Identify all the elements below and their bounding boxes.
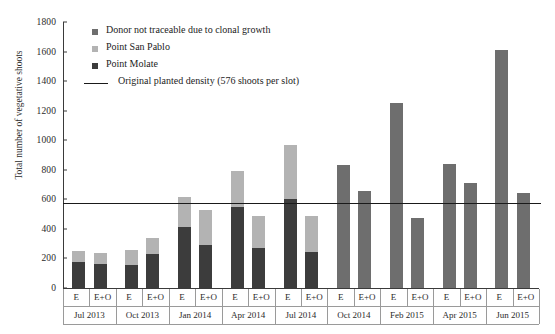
- bar-segment: [464, 183, 477, 288]
- y-axis-tick-label: 400: [18, 224, 56, 234]
- bar-segment: [305, 216, 318, 251]
- x-axis-date-label: Jul 2014: [275, 310, 328, 320]
- legend-swatch-molate-icon: [92, 63, 98, 69]
- bar-jun-2015-e-o[interactable]: [517, 22, 530, 288]
- bar-segment: [305, 252, 318, 288]
- y-axis-tick-label: 1600: [18, 47, 56, 57]
- x-axis-treatment-label: E: [275, 292, 301, 302]
- x-axis-treatment-label: E: [222, 292, 248, 302]
- bar-jun-2015-e[interactable]: [495, 22, 508, 288]
- bar-apr-2014-e-o[interactable]: [252, 22, 265, 288]
- bar-segment: [199, 210, 212, 245]
- bar-segment: [358, 191, 371, 288]
- bar-feb-2015-e[interactable]: [390, 22, 403, 288]
- bar-segment: [146, 238, 159, 254]
- bar-apr-2015-e-o[interactable]: [464, 22, 477, 288]
- bar-segment: [94, 264, 107, 288]
- x-axis-treatment-label: E: [433, 292, 459, 302]
- bar-apr-2015-e[interactable]: [443, 22, 456, 288]
- y-axis-tick-label: 200: [18, 253, 56, 263]
- x-axis-date-label: Feb 2015: [380, 310, 433, 320]
- y-axis-tick-label: 1800: [18, 17, 56, 27]
- x-axis-date-label: Jul 2013: [63, 310, 116, 320]
- x-axis-treatment-label: E: [169, 292, 195, 302]
- axis-grid-line: [539, 289, 540, 324]
- bar-jul-2014-e[interactable]: [284, 22, 297, 288]
- bar-oct-2014-e[interactable]: [337, 22, 350, 288]
- legend-label-san-pablo: Point San Pablo: [106, 41, 170, 52]
- bar-segment: [443, 164, 456, 288]
- x-axis-treatment-label: E+O: [89, 292, 115, 302]
- x-axis-treatment-label: E+O: [142, 292, 168, 302]
- bar-feb-2015-e-o[interactable]: [411, 22, 424, 288]
- x-axis-date-label: Apr 2015: [433, 310, 486, 320]
- bar-segment: [411, 218, 424, 288]
- y-axis-tick-label: 1000: [18, 135, 56, 145]
- bar-apr-2014-e[interactable]: [231, 22, 244, 288]
- x-axis-treatment-label: E+O: [195, 292, 221, 302]
- bar-segment: [125, 250, 138, 265]
- bar-jan-2014-e-o[interactable]: [199, 22, 212, 288]
- y-axis-tick-label: 1400: [18, 76, 56, 86]
- bar-segment: [94, 253, 107, 264]
- bar-segment: [390, 103, 403, 288]
- x-axis-treatment-label: E+O: [460, 292, 486, 302]
- legend-swatch-donor-icon: [92, 29, 98, 35]
- x-axis-treatment-label: E+O: [248, 292, 274, 302]
- bar-segment: [178, 227, 191, 288]
- x-axis-treatment-label: E: [486, 292, 512, 302]
- y-axis-tick-label: 800: [18, 165, 56, 175]
- bar-segment: [125, 265, 138, 288]
- x-axis-treatment-label: E: [380, 292, 406, 302]
- x-axis-date-label: Apr 2014: [222, 310, 275, 320]
- bar-segment: [517, 193, 530, 288]
- x-axis-treatment-label: E: [116, 292, 142, 302]
- legend-swatch-san-pablo-icon: [92, 46, 98, 52]
- bar-segment: [495, 50, 508, 288]
- bar-segment: [178, 197, 191, 227]
- x-axis-treatment-label: E: [63, 292, 89, 302]
- x-axis-treatment-label: E+O: [513, 292, 539, 302]
- x-axis-date-label: Oct 2014: [327, 310, 380, 320]
- reference-line: [63, 203, 541, 204]
- y-axis-tick-label: 600: [18, 194, 56, 204]
- legend-label-planted-density: Original planted density (576 shoots per…: [118, 75, 299, 86]
- y-axis-tick-label: 0: [18, 283, 56, 293]
- x-axis-date-label: Jun 2015: [486, 310, 539, 320]
- x-axis-treatment-label: E+O: [407, 292, 433, 302]
- legend-label-molate: Point Molate: [106, 58, 158, 69]
- bar-segment: [72, 251, 85, 262]
- bar-segment: [231, 171, 244, 207]
- bar-segment: [231, 207, 244, 288]
- legend-label-donor: Donor not traceable due to clonal growth: [106, 24, 270, 35]
- bar-jan-2014-e[interactable]: [178, 22, 191, 288]
- bar-segment: [199, 245, 212, 288]
- axis-grid-line: [63, 306, 539, 307]
- axis-grid-line: [63, 324, 539, 325]
- chart-figure: Total number of vegetative shoots 180016…: [0, 0, 555, 334]
- bar-jul-2014-e-o[interactable]: [305, 22, 318, 288]
- x-axis-date-label: Jan 2014: [169, 310, 222, 320]
- bar-segment: [252, 216, 265, 248]
- bar-jul-2013-e-o[interactable]: [94, 22, 107, 288]
- x-axis-treatment-label: E+O: [301, 292, 327, 302]
- bar-segment: [72, 262, 85, 288]
- x-axis-treatment-label: E: [327, 292, 353, 302]
- bar-segment: [146, 254, 159, 288]
- x-axis-treatment-label: E+O: [354, 292, 380, 302]
- bar-segment: [284, 199, 297, 288]
- bar-jul-2013-e[interactable]: [72, 22, 85, 288]
- bar-oct-2014-e-o[interactable]: [358, 22, 371, 288]
- bar-segment: [337, 165, 350, 288]
- x-axis-date-label: Oct 2013: [116, 310, 169, 320]
- legend-swatch-line-icon: [84, 83, 108, 84]
- y-axis-tick-label: 1200: [18, 106, 56, 116]
- bar-segment: [252, 248, 265, 288]
- bar-segment: [284, 145, 297, 199]
